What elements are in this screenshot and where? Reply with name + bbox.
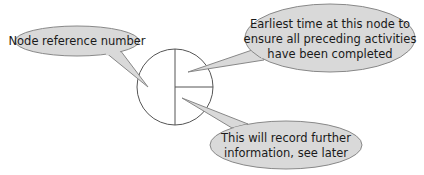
callout-label-line-1: This will record further bbox=[220, 131, 351, 145]
callout-further-info: This will record further information, se… bbox=[182, 98, 362, 169]
callout-label-line-3: have been completed bbox=[267, 47, 392, 61]
callout-label-line-1: Earliest time at this node to bbox=[250, 17, 410, 31]
callout-label-line-2: information, see later bbox=[224, 146, 348, 160]
callout-label: Node reference number bbox=[8, 34, 145, 48]
callout-label-line-2: ensure all preceding activities bbox=[244, 32, 417, 46]
callout-node-reference: Node reference number bbox=[8, 26, 148, 87]
network-node-diagram: Node reference number Earliest time at t… bbox=[0, 0, 424, 175]
callout-bubble bbox=[210, 121, 362, 169]
callout-earliest-time: Earliest time at this node to ensure all… bbox=[188, 4, 416, 72]
